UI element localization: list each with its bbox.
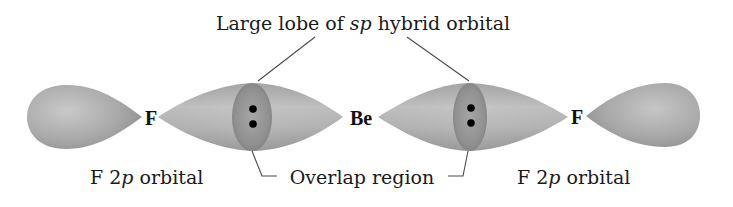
- right-orbital-label: F 2p orbital: [517, 166, 630, 188]
- left-bond-lens: [158, 83, 343, 151]
- electron-dot: [249, 120, 257, 128]
- left-f-2p-lobe: [27, 85, 142, 149]
- atom-right-f: F: [571, 106, 583, 128]
- title-leader-right: [407, 37, 469, 81]
- electron-dot: [467, 104, 475, 112]
- right-bond-lens: [378, 83, 568, 151]
- overlap-leader-left: [252, 151, 277, 176]
- electron-dot: [467, 119, 475, 127]
- title-label: Large lobe of sp hybrid orbital: [216, 12, 510, 34]
- overlap-leader-right: [448, 151, 468, 176]
- right-f-2p-lobe: [586, 83, 700, 147]
- bef2-orbital-diagram: Large lobe of sp hybrid orbital F Be F F…: [0, 0, 733, 207]
- left-orbital-label: F 2p orbital: [90, 166, 203, 188]
- atom-be: Be: [350, 107, 372, 129]
- title-leader-left: [258, 37, 315, 81]
- left-overlap-region: [232, 83, 272, 151]
- electron-dot: [249, 105, 257, 113]
- overlap-region-label: Overlap region: [290, 166, 435, 188]
- atom-left-f: F: [145, 107, 157, 129]
- right-overlap-region: [453, 83, 487, 151]
